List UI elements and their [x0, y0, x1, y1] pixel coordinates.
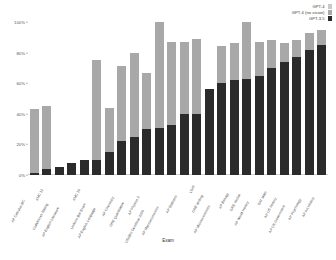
legend-item-label: GPT-3.5: [309, 16, 325, 21]
bar-stack: [42, 22, 51, 175]
bar-stack: [67, 22, 76, 175]
bar-stack: [317, 22, 326, 175]
x-axis-tick: AP Statistics: [178, 176, 191, 238]
y-axis-tick-label: 80%: [16, 50, 25, 55]
bar-stack: [130, 22, 139, 175]
legend-item[interactable]: GPT-4 (no vision): [292, 10, 332, 15]
bar-slot[interactable]: [291, 22, 304, 175]
x-axis-title: Exam: [0, 238, 336, 243]
y-axis-tick-label: 100%: [14, 20, 25, 25]
chart-legend: GPT-4GPT-4 (no vision)GPT-3.5: [292, 4, 332, 21]
bar-stack: [80, 22, 89, 175]
bar-slot[interactable]: [153, 22, 166, 175]
bar-group: [28, 22, 328, 175]
bar-gpt35: [30, 173, 39, 175]
bar-stack: [155, 22, 164, 175]
x-axis-tick-label: AP Calculus BC: [11, 199, 26, 223]
bar-gpt35: [80, 160, 89, 175]
legend-item-label: GPT-4 (no vision): [292, 10, 325, 15]
bar-stack: [305, 22, 314, 175]
bar-stack: [105, 22, 114, 175]
bar-slot[interactable]: [191, 22, 204, 175]
bar-stack: [92, 22, 101, 175]
bar-slot[interactable]: [316, 22, 329, 175]
bar-stack: [280, 22, 289, 175]
bar-gpt4-no-vision: [42, 106, 51, 175]
bar-slot[interactable]: [266, 22, 279, 175]
legend-item[interactable]: GPT-3.5: [309, 16, 332, 21]
bar-slot[interactable]: [53, 22, 66, 175]
x-axis-tick: AP Art History: [316, 176, 329, 238]
bar-gpt35: [155, 128, 164, 175]
bar-slot[interactable]: [41, 22, 54, 175]
bar-gpt35: [230, 80, 239, 175]
bar-slot[interactable]: [78, 22, 91, 175]
bar-gpt35: [105, 152, 114, 175]
bar-gpt35: [130, 137, 139, 175]
bar-slot[interactable]: [128, 22, 141, 175]
bar-gpt35: [192, 114, 201, 175]
bar-stack: [30, 22, 39, 175]
bar-gpt4-no-vision: [92, 60, 101, 175]
bar-slot[interactable]: [228, 22, 241, 175]
bar-stack: [205, 22, 214, 175]
bar-gpt35: [117, 141, 126, 175]
bar-gpt4-no-vision: [30, 109, 39, 175]
legend-item-label: GPT-4: [312, 4, 324, 9]
bar-gpt35: [92, 160, 101, 175]
bar-stack: [142, 22, 151, 175]
bar-stack: [167, 22, 176, 175]
bar-gpt35: [280, 62, 289, 175]
bar-slot[interactable]: [178, 22, 191, 175]
bar-gpt35: [242, 79, 251, 175]
bar-stack: [255, 22, 264, 175]
y-axis-tick-label: 60%: [16, 81, 25, 86]
bar-gpt35: [267, 68, 276, 175]
bar-slot[interactable]: [216, 22, 229, 175]
bar-gpt35: [67, 163, 76, 175]
bar-gpt35: [167, 125, 176, 175]
bar-slot[interactable]: [103, 22, 116, 175]
bar-slot[interactable]: [166, 22, 179, 175]
bar-slot[interactable]: [253, 22, 266, 175]
bar-gpt35: [255, 76, 264, 175]
bar-stack: [180, 22, 189, 175]
bar-gpt35: [317, 45, 326, 175]
bar-slot[interactable]: [278, 22, 291, 175]
bar-stack: [242, 22, 251, 175]
legend-swatch-icon: [328, 16, 333, 21]
bar-gpt35: [42, 169, 51, 175]
bar-slot[interactable]: [141, 22, 154, 175]
x-axis-tick: AP World History: [253, 176, 266, 238]
bar-slot[interactable]: [203, 22, 216, 175]
bar-slot[interactable]: [66, 22, 79, 175]
bar-slot[interactable]: [241, 22, 254, 175]
bar-stack: [192, 22, 201, 175]
legend-item[interactable]: GPT-4: [312, 4, 332, 9]
legend-swatch-icon: [328, 4, 333, 9]
y-axis-tick-label: 40%: [16, 111, 25, 116]
bar-slot[interactable]: [91, 22, 104, 175]
legend-swatch-icon: [328, 10, 333, 15]
y-axis-tick-label: 20%: [16, 142, 25, 147]
bar-stack: [292, 22, 301, 175]
bar-stack: [230, 22, 239, 175]
bar-gpt35: [217, 83, 226, 175]
bar-gpt35: [55, 167, 64, 175]
bar-gpt35: [305, 50, 314, 175]
x-axis-tick-label: LSAT: [189, 185, 197, 194]
bar-gpt35: [205, 89, 214, 175]
bar-slot[interactable]: [28, 22, 41, 175]
bar-gpt35: [292, 57, 301, 175]
plot-area: 0%20%40%60%80%100%: [28, 22, 328, 175]
exam-results-bar-chart: GPT-4GPT-4 (no vision)GPT-3.5 0%20%40%60…: [0, 0, 336, 260]
bar-slot[interactable]: [116, 22, 129, 175]
bar-stack: [217, 22, 226, 175]
bar-stack: [117, 22, 126, 175]
bar-stack: [55, 22, 64, 175]
bar-gpt35: [142, 129, 151, 175]
y-axis-tick-label: 0%: [19, 173, 25, 178]
bar-gpt35: [180, 114, 189, 175]
bar-slot[interactable]: [303, 22, 316, 175]
bar-stack: [267, 22, 276, 175]
